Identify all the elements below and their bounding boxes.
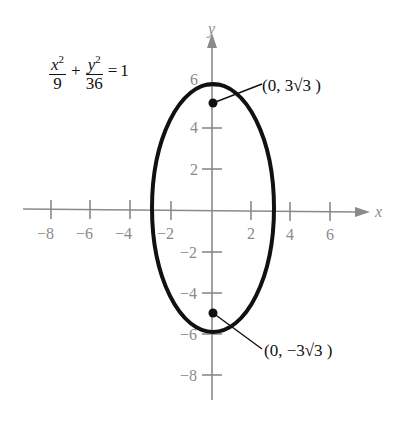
y-tick-label: −2	[180, 244, 197, 261]
upper-point-label: (0, 3√3 )	[262, 76, 321, 95]
lower-point-annotation: (0, −3√3 )	[209, 309, 333, 361]
y-tick-label: −6	[180, 326, 197, 343]
equation-term-x: x2 9	[49, 50, 66, 93]
x-axis-arrow-icon	[355, 207, 370, 217]
x-tick-label: −8	[37, 225, 54, 242]
y-tick-label: −8	[180, 367, 197, 384]
plus-sign: +	[71, 61, 81, 81]
ellipse-equation: x2 9 + y2 36 = 1	[47, 50, 129, 93]
x-axis-label: x	[374, 203, 382, 220]
x-axis: −8 −6 −4 −2 2 4 6 x	[23, 200, 382, 243]
x-tick-label: −6	[76, 225, 93, 242]
exponent: 2	[59, 53, 65, 65]
equals-sign: =	[108, 61, 118, 81]
x-tick-label: 4	[286, 226, 294, 243]
lower-point-label: (0, −3√3 )	[264, 341, 333, 360]
y-tick-label: 2	[190, 161, 198, 178]
exponent: 2	[95, 53, 101, 65]
upper-point-marker	[209, 99, 218, 108]
lower-point-marker	[209, 309, 218, 318]
x-tick-label: 6	[326, 226, 334, 243]
x-tick-label: 2	[247, 225, 255, 242]
denominator: 9	[53, 75, 62, 93]
rhs-value: 1	[120, 61, 129, 81]
y-tick-label: −4	[180, 285, 197, 302]
x-tick-label: −4	[115, 225, 132, 242]
var-x: x	[51, 55, 59, 74]
y-tick-label: 6	[190, 71, 198, 88]
y-axis-label: y	[206, 20, 216, 38]
upper-point-annotation: (0, 3√3 )	[209, 76, 321, 108]
y-tick-label: 4	[190, 119, 198, 136]
denominator: 36	[86, 75, 103, 93]
x-tick-label: −2	[157, 225, 174, 242]
equation-term-y: y2 36	[86, 50, 103, 93]
